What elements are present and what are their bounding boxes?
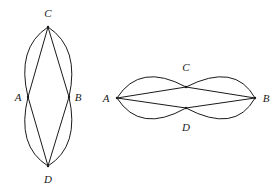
straight-edge-C-B: [48, 27, 69, 97]
straight-edge-C-A: [28, 27, 48, 97]
vertex-label-D: D: [181, 121, 190, 133]
figure-vertical: CABD: [14, 7, 82, 185]
straight-edge-A-D: [117, 98, 186, 108]
vertex-label-A: A: [102, 92, 110, 104]
vertex-label-D: D: [43, 173, 52, 185]
vertex-label-C: C: [44, 7, 52, 19]
straight-edge-A-C: [117, 87, 186, 98]
vertex-label-B: B: [75, 91, 82, 103]
straight-edge-A-D: [28, 97, 48, 166]
figure-horizontal: ABCD: [102, 61, 270, 133]
vertex-D: [47, 165, 49, 167]
vertex-C: [185, 86, 187, 88]
vertex-A: [27, 96, 29, 98]
curved-edge-A-C: [117, 77, 186, 98]
curved-edge-A-D: [117, 98, 186, 119]
straight-edge-D-B: [186, 98, 255, 108]
vertex-A: [116, 97, 118, 99]
vertex-label-B: B: [263, 92, 270, 104]
straight-edge-B-D: [48, 97, 69, 166]
curved-edge-D-B: [186, 98, 255, 119]
vertex-D: [185, 107, 187, 109]
vertex-label-C: C: [182, 61, 190, 73]
curved-edge-C-B: [186, 77, 255, 98]
vertex-B: [68, 96, 70, 98]
vertex-C: [47, 26, 49, 28]
graph-diagram-canvas: CABDABCD: [0, 0, 280, 193]
vertex-label-A: A: [14, 91, 22, 103]
vertex-B: [254, 97, 256, 99]
straight-edge-C-B: [186, 87, 255, 98]
